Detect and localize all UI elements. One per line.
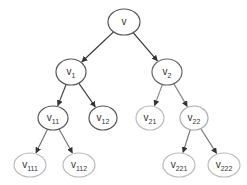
node-v222: v222 <box>208 153 240 177</box>
node-label: v <box>122 16 127 27</box>
edge-v22-v222 <box>201 129 217 154</box>
node-v221: v221 <box>163 153 195 177</box>
node-v22: v22 <box>180 106 208 130</box>
edge-v-v1 <box>82 32 114 62</box>
edge-v11-v112 <box>59 129 72 153</box>
edge-v11-v111 <box>36 129 48 153</box>
edge-v2-v22 <box>174 84 187 107</box>
edge-v-v2 <box>133 33 157 61</box>
node-v: v <box>108 9 140 35</box>
node-v112: v112 <box>63 153 95 177</box>
node-v21: v21 <box>136 106 164 130</box>
node-v2: v2 <box>152 59 182 85</box>
tree-nodes: vv1v2v11v12v21v22v111v112v221v222 <box>14 9 240 177</box>
tree-edges <box>36 32 217 153</box>
edge-v1-v12 <box>79 83 96 107</box>
node-v1: v1 <box>56 59 86 85</box>
node-v12: v12 <box>89 106 117 130</box>
edge-v22-v221 <box>183 130 190 153</box>
tree-diagram: vv1v2v11v12v21v22v111v112v221v222 <box>0 0 247 185</box>
node-v11: v11 <box>38 106 68 130</box>
edge-v1-v11 <box>58 84 66 105</box>
edge-v2-v21 <box>155 84 163 105</box>
node-v111: v111 <box>14 153 46 177</box>
